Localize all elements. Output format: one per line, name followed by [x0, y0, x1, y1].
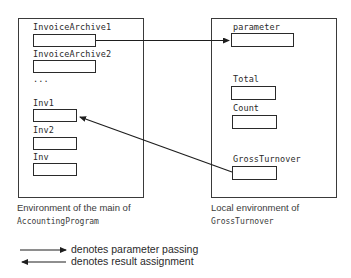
var-label-inv1: Inv1 — [33, 98, 54, 108]
var-label-total: Total — [233, 74, 259, 84]
var-label-ellipsis: ... — [33, 74, 49, 84]
local-environment-caption: Local environment of — [211, 202, 299, 213]
var-label-count: Count — [233, 103, 259, 113]
legend-parameter-passing: denotes parameter passing — [71, 243, 198, 255]
var-cell-invoicearchive1 — [33, 34, 96, 47]
var-cell-parameter — [231, 33, 294, 47]
var-cell-grossturnover — [232, 166, 277, 180]
var-label-inv: Inv — [33, 152, 49, 162]
var-label-inv2: Inv2 — [33, 125, 54, 135]
var-label-invoicearchive1: InvoiceArchive1 — [33, 22, 111, 32]
var-cell-count — [232, 115, 277, 129]
var-cell-inv2 — [33, 137, 77, 150]
local-environment-function-name: GrossTurnover — [211, 217, 274, 226]
var-cell-total — [231, 86, 276, 100]
main-environment-program-name: AccountingProgram — [17, 217, 99, 226]
var-label-invoicearchive2: InvoiceArchive2 — [33, 49, 111, 59]
var-cell-invoicearchive2 — [33, 60, 96, 73]
legend-result-assignment: denotes result assignment — [71, 255, 194, 267]
var-label-grossturnover: GrossTurnover — [233, 154, 301, 164]
var-cell-inv1 — [33, 109, 77, 122]
var-label-parameter: parameter — [233, 22, 280, 32]
var-cell-inv — [33, 163, 77, 176]
main-environment-caption: Environment of the main of — [17, 202, 131, 213]
